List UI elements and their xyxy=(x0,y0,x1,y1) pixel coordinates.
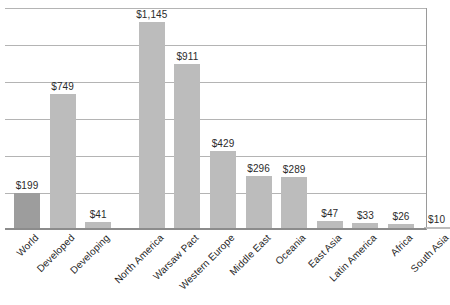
bar[interactable] xyxy=(14,193,40,229)
bar-slot[interactable] xyxy=(388,7,414,229)
bar-slot[interactable] xyxy=(14,7,40,229)
bar-value-label: $749 xyxy=(51,81,74,92)
bar-slot[interactable] xyxy=(139,7,165,229)
bar-slot[interactable] xyxy=(246,7,272,229)
bar-slot[interactable] xyxy=(281,7,307,229)
x-axis-label: Africa xyxy=(388,232,414,258)
bar-value-label: $1,145 xyxy=(136,9,167,20)
bar-value-label: $26 xyxy=(393,211,410,222)
bar-value-label: $911 xyxy=(176,51,198,62)
bar-slot[interactable] xyxy=(174,7,200,229)
bar[interactable] xyxy=(50,94,76,229)
x-axis-labels: WorldDevelopedDevelopingNorth AmericaWar… xyxy=(5,232,427,302)
bar-value-label: $289 xyxy=(283,164,306,175)
bar-value-label: $10 xyxy=(428,214,445,225)
bar-value-label: $199 xyxy=(16,180,39,191)
x-axis-label: South Asia xyxy=(408,232,450,274)
bar-slot[interactable] xyxy=(352,7,378,229)
x-axis-label: World xyxy=(14,232,40,258)
bar-slot[interactable] xyxy=(85,7,111,229)
bar-value-label: $33 xyxy=(357,210,374,221)
bar[interactable] xyxy=(174,64,200,229)
bar[interactable] xyxy=(281,177,307,229)
bar[interactable] xyxy=(210,151,236,229)
bar[interactable] xyxy=(139,22,165,229)
bar-slot[interactable] xyxy=(210,7,236,229)
bar-value-label: $47 xyxy=(321,208,338,219)
bar-value-label: $41 xyxy=(90,209,107,220)
bar[interactable] xyxy=(424,227,450,229)
bar-slot[interactable] xyxy=(50,7,76,229)
bar[interactable] xyxy=(246,176,272,230)
x-axis-line xyxy=(5,228,426,230)
bar-value-label: $429 xyxy=(212,138,235,149)
x-axis-label: Oceania xyxy=(273,232,308,267)
bar-slot[interactable] xyxy=(317,7,343,229)
plot-area: $199$749$41$1,145$911$429$296$289$47$33$… xyxy=(5,8,427,230)
bar-slot[interactable] xyxy=(424,7,450,229)
bar-value-label: $296 xyxy=(247,163,270,174)
